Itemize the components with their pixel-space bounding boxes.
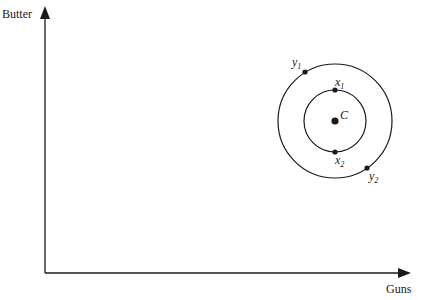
y-axis-arrow-icon bbox=[40, 6, 50, 19]
x-axis-label: Guns bbox=[386, 282, 412, 296]
point-x2-label: x2 bbox=[334, 153, 344, 169]
indifference-diagram: Butter Guns C x1 x2 y1 y2 bbox=[0, 0, 421, 300]
y-axis-label: Butter bbox=[2, 7, 32, 21]
point-x1-label: x1 bbox=[334, 75, 344, 91]
center-point bbox=[331, 117, 338, 124]
center-label: C bbox=[340, 108, 349, 122]
point-y1 bbox=[302, 69, 307, 74]
point-y2-label: y2 bbox=[368, 169, 378, 185]
point-y1-label: y1 bbox=[291, 55, 301, 71]
x-axis-arrow-icon bbox=[398, 268, 411, 278]
